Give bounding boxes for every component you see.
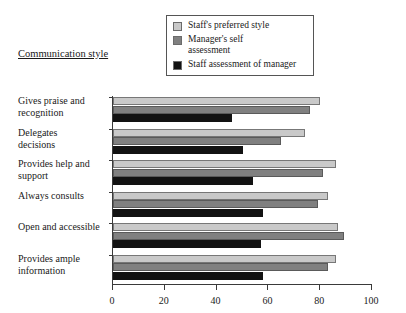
bar-group	[113, 192, 372, 217]
legend-swatch-staff-of-manager	[173, 61, 182, 70]
bar	[113, 169, 323, 177]
legend-swatch-staff-preferred	[173, 22, 182, 31]
x-axis-tick-label: 40	[211, 295, 221, 306]
category-label: Always consults	[18, 190, 110, 202]
chart-axis-title: Communication style	[18, 48, 108, 59]
category-label: Delegates decisions	[18, 127, 110, 151]
bar	[113, 137, 281, 145]
legend-label-staff-preferred: Staff's preferred style	[188, 20, 269, 31]
bar	[113, 192, 328, 200]
bar-group	[113, 223, 372, 248]
x-axis-tick-label: 0	[110, 295, 115, 306]
legend-swatch-manager-self	[173, 36, 182, 45]
category-label: Provides help and support	[18, 158, 110, 182]
x-axis-tick	[216, 285, 217, 290]
x-axis-tick-label: 60	[262, 295, 272, 306]
bar	[113, 97, 320, 105]
bar	[113, 129, 305, 137]
bar	[113, 240, 261, 248]
bar	[113, 160, 336, 168]
legend-label-manager-self: Manager's self assessment	[188, 34, 243, 56]
category-label: Provides ample information	[18, 253, 110, 277]
x-axis-tick-label: 100	[364, 295, 379, 306]
x-axis-tick	[319, 285, 320, 290]
legend-item-staff-of-manager: Staff assessment of manager	[173, 59, 308, 70]
bar-group	[113, 160, 372, 185]
bar	[113, 200, 318, 208]
x-axis-tick	[267, 285, 268, 290]
legend-item-manager-self: Manager's self assessment	[173, 34, 308, 56]
bar-group	[113, 97, 372, 122]
category-label: Open and accessible	[18, 221, 110, 233]
bar	[113, 272, 263, 280]
legend-label-staff-of-manager: Staff assessment of manager	[188, 59, 296, 70]
category-label: Gives praise and recognition	[18, 95, 110, 119]
legend-item-staff-preferred: Staff's preferred style	[173, 20, 308, 31]
x-axis-tick-label: 80	[314, 295, 324, 306]
x-axis-tick-label: 20	[159, 295, 169, 306]
bar	[113, 255, 336, 263]
x-axis-tick	[112, 285, 113, 290]
bar-chart-figure: Staff's preferred style Manager's self a…	[0, 0, 406, 313]
bar	[113, 106, 310, 114]
x-axis-tick	[371, 285, 372, 290]
bar-group	[113, 129, 372, 154]
bar	[113, 146, 243, 154]
x-axis-line	[112, 284, 372, 285]
bar	[113, 223, 338, 231]
plot-area: 020406080100	[112, 96, 372, 285]
bar	[113, 209, 263, 217]
x-axis-tick	[164, 285, 165, 290]
bar	[113, 263, 328, 271]
chart-legend: Staff's preferred style Manager's self a…	[166, 15, 314, 76]
bar	[113, 177, 253, 185]
bar	[113, 114, 232, 122]
bar-group	[113, 255, 372, 280]
bar	[113, 232, 344, 240]
